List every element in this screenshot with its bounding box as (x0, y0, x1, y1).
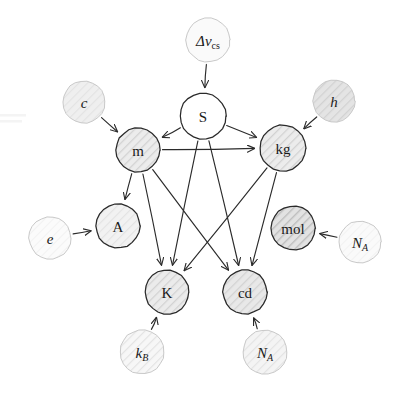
node-dnu_cs[interactable]: Δνcs (186, 18, 231, 62)
node-kB[interactable]: kB (120, 330, 164, 374)
node-e[interactable]: e (29, 217, 71, 259)
node-NA_mol[interactable]: NA (339, 221, 381, 263)
si-units-diagram: ΔνcscheNAkBNASmkgAmolKcd (0, 0, 402, 400)
node-S[interactable]: S (180, 93, 226, 139)
node-h[interactable]: h (313, 80, 356, 122)
node-kg[interactable]: kg (260, 125, 306, 171)
node-mol[interactable]: mol (271, 206, 315, 250)
node-c[interactable]: c (63, 81, 105, 123)
si-units-graph-canvas: ΔνcscheNAkBNASmkgAmolKcd (0, 0, 402, 400)
node-NA_cd[interactable]: NA (243, 330, 287, 374)
node-K[interactable]: K (145, 270, 189, 314)
node-A[interactable]: A (96, 204, 140, 248)
node-m[interactable]: m (116, 128, 160, 172)
node-cd[interactable]: cd (223, 270, 268, 314)
